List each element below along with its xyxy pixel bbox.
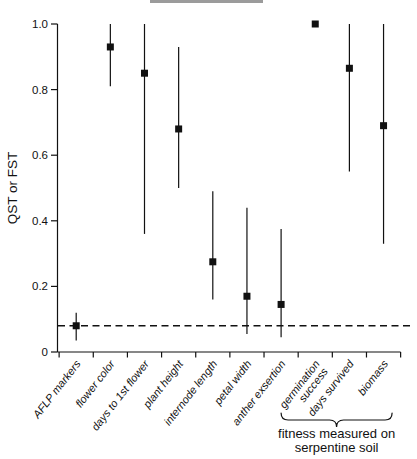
brace-label: serpentine soil	[295, 440, 379, 455]
y-tick-label: 0	[42, 346, 48, 358]
qst-fst-chart: 00.20.40.60.81.0AFLP markersflower color…	[0, 0, 417, 459]
data-point-marker	[312, 21, 319, 28]
data-point-marker	[141, 70, 148, 77]
data-point-marker	[107, 43, 114, 50]
data-point-marker	[209, 258, 216, 265]
fitness-group-brace	[281, 413, 392, 427]
x-category-label: AFLP markers	[30, 357, 83, 421]
data-point-marker	[346, 65, 353, 72]
y-tick-label: 0.2	[32, 280, 48, 292]
y-tick-label: 1.0	[32, 18, 48, 30]
data-point-marker	[175, 125, 182, 132]
data-point-marker	[73, 322, 80, 329]
data-point-marker	[243, 293, 250, 300]
brace-label: fitness measured on	[278, 426, 395, 441]
data-point-marker	[380, 122, 387, 129]
y-tick-label: 0.4	[32, 215, 49, 227]
y-axis-title: QST or FST	[5, 152, 20, 225]
y-tick-label: 0.8	[32, 84, 48, 96]
x-category-label: biomass	[355, 357, 390, 397]
qst-fst-figure: 00.20.40.60.81.0AFLP markersflower color…	[0, 0, 417, 459]
data-point-marker	[278, 301, 285, 308]
y-tick-label: 0.6	[32, 149, 48, 161]
